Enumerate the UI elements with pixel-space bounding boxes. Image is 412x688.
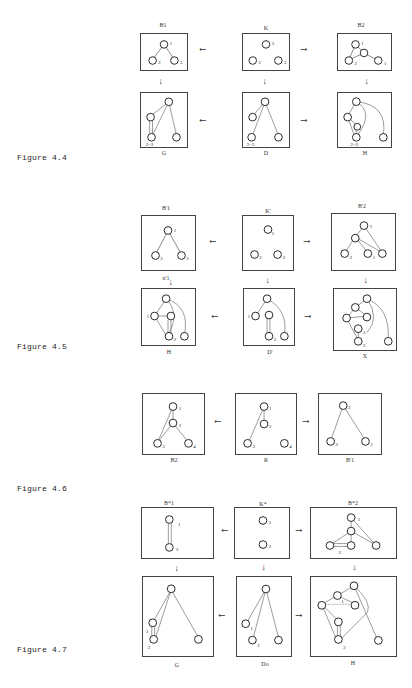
caption-b1-prime-f46: B'1 [330, 457, 370, 463]
arrow-down: ↓ [364, 78, 369, 87]
svg-text:1: 1 [269, 520, 272, 525]
arrow-down: ↓ [363, 277, 368, 286]
svg-text:3: 3 [350, 255, 353, 260]
arrow-left: ⟵ [210, 238, 215, 247]
svg-text:3: 3 [363, 330, 366, 335]
caption-h2: H [149, 349, 189, 355]
caption-d-zero: Do [245, 661, 285, 667]
svg-text:3: 3 [162, 444, 165, 449]
svg-text:2=3: 2=3 [146, 142, 154, 147]
svg-text:2: 2 [257, 643, 260, 648]
svg-text:2: 2 [174, 337, 177, 342]
arrow-down: ↓ [261, 564, 266, 573]
svg-text:2: 2 [370, 442, 373, 447]
svg-text:3: 3 [335, 442, 338, 447]
caption-k-prime: K' [248, 208, 288, 214]
graph-g: 2=3 [140, 92, 188, 148]
svg-text:3: 3 [282, 255, 285, 260]
svg-text:2: 2 [158, 60, 161, 65]
figure-label-4-4: Figure 4.4 [17, 153, 67, 162]
svg-text:1: 1 [179, 406, 182, 411]
caption-k: K [246, 25, 286, 31]
graph-h-prime: 12 [141, 288, 196, 346]
graph-h-star: 12 [310, 576, 397, 657]
arrow-down: ↓ [174, 565, 179, 574]
arrow-down: ↓ [262, 78, 267, 87]
arrow-down: ↓ [168, 279, 173, 288]
caption-g-star: G [157, 662, 197, 668]
svg-text:1: 1 [174, 228, 177, 233]
svg-text:3: 3 [186, 256, 189, 261]
caption-h: H [345, 150, 385, 156]
svg-text:2: 2 [274, 337, 277, 342]
svg-text:1: 1 [170, 41, 173, 46]
graph-b1-prime: 133 [141, 215, 196, 271]
svg-text:2=3: 2=3 [351, 142, 359, 147]
graph-b1-star: 12 [141, 507, 214, 559]
caption-b1: B1 [143, 22, 183, 28]
svg-text:2: 2 [179, 423, 182, 428]
svg-text:2: 2 [348, 405, 351, 410]
caption-b1-prime: B'1 [146, 205, 186, 211]
arrow-left: ⟵ [219, 612, 224, 621]
caption-b1-star: B*1 [149, 500, 189, 506]
caption-b2-star: B*2 [333, 500, 373, 506]
svg-text:4: 4 [193, 444, 196, 449]
caption-d: D [246, 150, 286, 156]
svg-text:2: 2 [269, 424, 272, 429]
svg-text:2=3: 2=3 [247, 142, 255, 147]
svg-text:1: 1 [248, 314, 251, 319]
caption-r: R [246, 457, 286, 463]
graph-d-prime: 12 [243, 288, 295, 346]
arrow-down: ↓ [158, 78, 163, 87]
caption-h-star: H [333, 660, 373, 666]
graph-k-star: 12 [234, 507, 290, 559]
svg-text:1: 1 [272, 231, 275, 236]
graph-d: 2=3 [242, 92, 290, 148]
graph-b2-prime: 131 [331, 213, 396, 271]
svg-text:2: 2 [259, 255, 262, 260]
svg-text:2: 2 [363, 343, 366, 348]
svg-text:2: 2 [339, 550, 342, 555]
caption-g: G [144, 150, 184, 156]
svg-text:3: 3 [180, 60, 183, 65]
graph-b2-star: 12 [310, 507, 397, 559]
graph-b1: 123 [140, 33, 188, 71]
svg-text:3: 3 [252, 444, 255, 449]
svg-text:1: 1 [373, 255, 376, 260]
arrow-left: ⟵ [215, 418, 220, 427]
arrow-left: ⟵ [200, 46, 205, 55]
arrow-left: ⟵ [200, 117, 205, 126]
svg-text:1: 1 [251, 626, 254, 631]
arrow-left: ⟵ [222, 527, 227, 536]
caption-d-prime: D' [250, 349, 290, 355]
graph-r: 1234 [235, 393, 297, 455]
graph-k: 323 [242, 33, 290, 71]
arrow-down: ↓ [265, 277, 270, 286]
svg-text:2: 2 [148, 645, 151, 650]
arrow-left: ⟵ [212, 313, 217, 322]
svg-text:2: 2 [355, 61, 358, 66]
svg-text:1: 1 [269, 406, 272, 411]
svg-text:1: 1 [370, 224, 373, 229]
svg-text:2: 2 [176, 547, 179, 552]
graph-h: 2=3 [337, 92, 392, 148]
arrow-right: ⟶ [304, 238, 309, 247]
arrow-right: ⟶ [301, 117, 306, 126]
svg-text:4: 4 [289, 444, 292, 449]
graph-b1-drawing: 123 [141, 34, 187, 70]
figure-label-4-6: Figure 4.6 [17, 484, 67, 493]
svg-text:1: 1 [358, 517, 361, 522]
arrow-right: ⟶ [305, 313, 310, 322]
svg-text:1: 1 [147, 314, 150, 319]
svg-text:3: 3 [284, 60, 287, 65]
svg-text:1: 1 [384, 61, 387, 66]
caption-b2-prime: B'2 [342, 203, 382, 209]
graph-k-prime: 123 [242, 215, 294, 271]
svg-text:1: 1 [341, 599, 344, 604]
graph-b2-f46: 1234 [142, 393, 205, 455]
svg-text:1: 1 [146, 629, 149, 634]
graph-b2: 121 [337, 33, 392, 71]
svg-text:1: 1 [178, 522, 181, 527]
svg-text:2: 2 [269, 544, 272, 549]
